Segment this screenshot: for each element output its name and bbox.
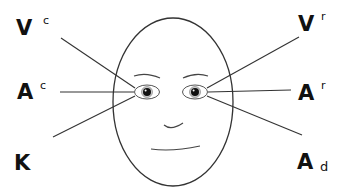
line-vr [207, 37, 299, 88]
right-eyebrow [183, 74, 208, 78]
line-vc [61, 38, 135, 88]
label-ac-sup: c [40, 80, 46, 91]
left-eyebrow [134, 74, 160, 78]
label-vc-sup: c [43, 15, 49, 26]
line-k [53, 96, 135, 137]
label-vc: V [16, 18, 32, 39]
nose [164, 123, 183, 128]
label-vr-sup: r [321, 11, 326, 22]
left-eye [135, 85, 160, 99]
label-vr: V [298, 14, 314, 35]
face-diagram [0, 0, 344, 191]
label-ar: A [298, 83, 314, 104]
right-eye [183, 85, 208, 99]
mouth [151, 146, 200, 150]
line-ar [208, 90, 291, 92]
line-ad [207, 96, 302, 135]
label-ad-sub: d [320, 160, 328, 173]
label-k: K [14, 153, 30, 174]
face-outline [113, 18, 233, 186]
label-ac: A [17, 82, 33, 103]
label-ar-sup: r [321, 80, 326, 91]
label-ad: A [297, 152, 313, 173]
